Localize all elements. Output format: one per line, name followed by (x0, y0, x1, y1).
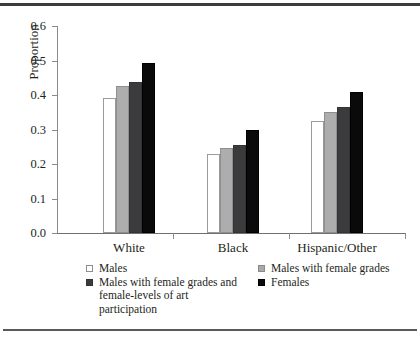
figure: Proportion 0.00.10.20.30.40.50.6 WhiteBl… (0, 0, 420, 338)
x-axis-tick (173, 233, 174, 239)
y-axis-tick (52, 130, 57, 131)
legend-swatch-icon (258, 279, 265, 286)
y-axis-tick-label: 0.5 (30, 53, 46, 68)
x-axis-tick (405, 233, 406, 239)
y-axis-tick-label: 0.4 (30, 88, 46, 103)
x-axis-line (57, 233, 405, 234)
plot-area (57, 26, 405, 233)
y-axis-tick-label: 0.3 (30, 122, 46, 137)
legend-item[interactable]: Males with female grades (258, 262, 408, 275)
bar-group (311, 26, 363, 233)
x-axis-category-label: Hispanic/Other (297, 240, 376, 256)
legend-column-left: Males Males with female grades and femal… (86, 262, 246, 317)
legend-label: Males (99, 262, 246, 275)
legend-swatch-icon (86, 279, 93, 286)
y-axis-line (57, 26, 58, 233)
top-rule (0, 3, 420, 6)
bar[interactable] (220, 148, 233, 233)
legend-item[interactable]: Males (86, 262, 246, 275)
legend-label: Males with female grades and female-leve… (99, 276, 246, 316)
bar[interactable] (129, 82, 142, 233)
y-axis-tick-label: 0.6 (30, 19, 46, 34)
y-axis-tick-labels: 0.00.10.20.30.40.50.6 (0, 26, 49, 233)
legend-swatch-icon (86, 265, 93, 272)
bar[interactable] (350, 92, 363, 233)
legend-label: Males with female grades (271, 262, 408, 275)
legend-label: Females (271, 276, 408, 289)
legend-column-right: Males with female grades Females (258, 262, 408, 290)
bar[interactable] (207, 154, 220, 233)
y-axis-tick (52, 95, 57, 96)
bar[interactable] (103, 98, 116, 233)
y-axis-tick (52, 233, 57, 234)
y-axis-tick-label: 0.2 (30, 157, 46, 172)
y-axis-tick (52, 199, 57, 200)
x-axis-tick (289, 233, 290, 239)
y-axis-tick (52, 61, 57, 62)
bar-group (103, 26, 155, 233)
bottom-rule (3, 329, 417, 331)
legend-swatch-icon (258, 265, 265, 272)
bar[interactable] (324, 112, 337, 233)
bar[interactable] (337, 107, 350, 233)
x-axis-category-label: Black (218, 240, 248, 256)
bar[interactable] (246, 130, 259, 234)
legend-item[interactable]: Males with female grades and female-leve… (86, 276, 246, 316)
y-axis-tick (52, 164, 57, 165)
bar-group (207, 26, 259, 233)
bar[interactable] (142, 63, 155, 233)
bar[interactable] (116, 86, 129, 233)
y-axis-tick (52, 26, 57, 27)
y-axis-tick-label: 0.1 (30, 191, 46, 206)
bar[interactable] (311, 121, 324, 233)
y-axis-tick-label: 0.0 (30, 226, 46, 241)
legend-item[interactable]: Females (258, 276, 408, 289)
x-axis-category-label: White (113, 240, 145, 256)
bar[interactable] (233, 145, 246, 233)
